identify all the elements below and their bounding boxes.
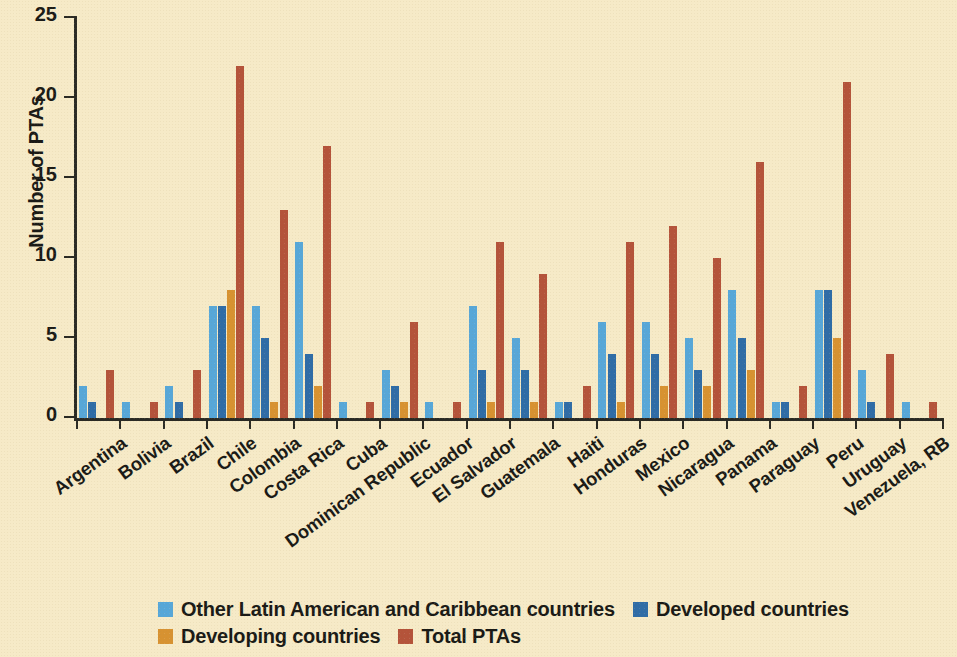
bar[interactable] [929,402,937,418]
bar[interactable] [88,402,96,418]
y-tick-label: 5 [46,323,57,346]
bar[interactable] [564,402,572,418]
bar[interactable] [886,354,894,418]
bar[interactable] [598,322,606,418]
bar[interactable] [756,162,764,418]
bar[interactable] [815,290,823,418]
bar[interactable] [209,306,217,418]
legend-item-developing-countries[interactable]: Developing countries [158,625,380,648]
bar-group [598,18,634,418]
x-tick [293,418,295,429]
bar[interactable] [642,322,650,418]
x-axis-label: Bolivia [114,432,175,485]
bar[interactable] [218,306,226,418]
y-tick: 20 [64,96,75,98]
x-tick [336,418,338,429]
x-axis-label: Colombia [225,432,305,498]
bar[interactable] [555,402,563,418]
x-tick [119,418,121,429]
bar-group [815,18,851,418]
bar[interactable] [747,370,755,418]
bar[interactable] [781,402,789,418]
bar[interactable] [651,354,659,418]
legend-item-other-latin-american-and-caribbean-countries[interactable]: Other Latin American and Caribbean count… [158,598,615,621]
legend-label: Developed countries [656,598,849,621]
x-tick [76,418,78,429]
bar[interactable] [496,242,504,418]
x-tick [552,418,554,429]
y-tick-label: 20 [35,83,57,106]
chart-legend: Other Latin American and Caribbean count… [158,598,948,652]
x-axis-label: Ecuador [406,432,478,492]
legend-swatch-icon [398,629,413,644]
bar-group [858,18,894,418]
bar[interactable] [521,370,529,418]
bar[interactable] [339,402,347,418]
bar[interactable] [669,226,677,418]
bar-group [685,18,721,418]
bar[interactable] [626,242,634,418]
bar[interactable] [617,402,625,418]
bar[interactable] [150,402,158,418]
bar[interactable] [175,402,183,418]
legend-label: Other Latin American and Caribbean count… [181,598,615,621]
bar[interactable] [738,338,746,418]
bar[interactable] [469,306,477,418]
bar[interactable] [252,306,260,418]
bar[interactable] [280,210,288,418]
bar[interactable] [323,146,331,418]
bar[interactable] [305,354,313,418]
bar[interactable] [867,402,875,418]
bar[interactable] [366,402,374,418]
bar[interactable] [660,386,668,418]
bar[interactable] [713,258,721,418]
bar[interactable] [122,402,130,418]
x-tick [249,418,251,429]
bar[interactable] [512,338,520,418]
bar[interactable] [539,274,547,418]
x-axis-label: Uruguay [838,432,911,493]
bar[interactable] [530,402,538,418]
bar[interactable] [902,402,910,418]
x-axis-label: Chile [213,432,262,476]
bar[interactable] [400,402,408,418]
bar[interactable] [295,242,303,418]
bar[interactable] [391,386,399,418]
bar-group [902,18,938,418]
bar[interactable] [824,290,832,418]
bar[interactable] [106,370,114,418]
bar[interactable] [487,402,495,418]
bar[interactable] [261,338,269,418]
bar[interactable] [799,386,807,418]
bar[interactable] [833,338,841,418]
bar[interactable] [425,402,433,418]
bar[interactable] [270,402,278,418]
bar[interactable] [608,354,616,418]
x-tick [466,418,468,429]
bar[interactable] [583,386,591,418]
bar[interactable] [703,386,711,418]
bar[interactable] [410,322,418,418]
bar[interactable] [858,370,866,418]
legend-item-total-ptas[interactable]: Total PTAs [398,625,521,648]
bar[interactable] [165,386,173,418]
bar[interactable] [772,402,780,418]
bar[interactable] [193,370,201,418]
bar[interactable] [79,386,87,418]
bar[interactable] [694,370,702,418]
bar-group [772,18,808,418]
bar[interactable] [236,66,244,418]
bar[interactable] [314,386,322,418]
bar[interactable] [478,370,486,418]
bar[interactable] [685,338,693,418]
bar-group [209,18,245,418]
legend-item-developed-countries[interactable]: Developed countries [633,598,849,621]
bar[interactable] [843,82,851,418]
bar[interactable] [382,370,390,418]
bar[interactable] [453,402,461,418]
legend-label: Developing countries [181,625,380,648]
y-tick-label: 0 [46,403,57,426]
bar[interactable] [728,290,736,418]
legend-label: Total PTAs [421,625,521,648]
bar[interactable] [227,290,235,418]
